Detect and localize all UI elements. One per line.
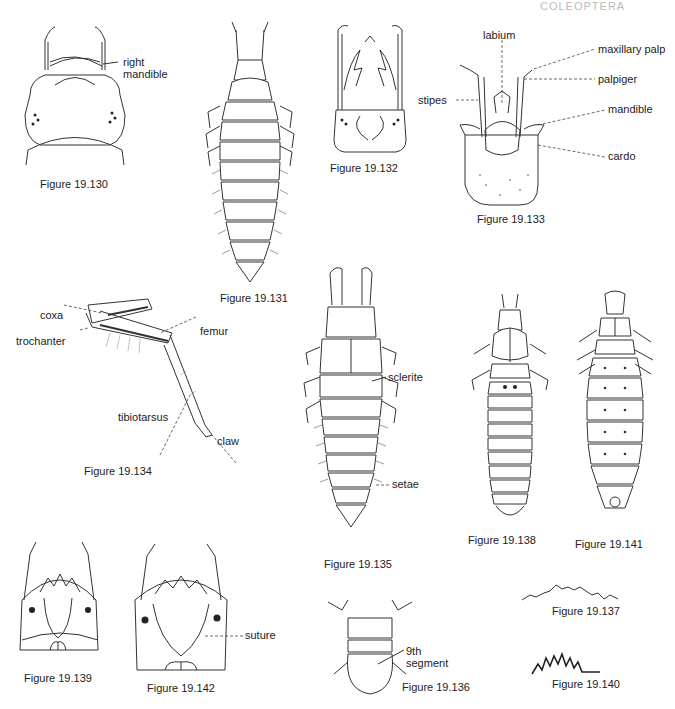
figure-caption: Figure 19.130 — [40, 178, 108, 190]
label-segment: segment — [406, 657, 448, 669]
label-coxa: coxa — [40, 309, 63, 321]
figure-19-130: right mandible Figure 19.130 — [0, 0, 200, 195]
figure-19-131: Figure 19.131 — [200, 20, 300, 310]
label-palpiger: palpiger — [598, 73, 637, 85]
label-mandible: mandible — [123, 68, 168, 80]
larva-head-drawing — [0, 0, 200, 180]
label-femur: femur — [200, 325, 228, 337]
label-maxillary-palp: maxillary palp — [598, 43, 665, 55]
label-stipes: stipes — [418, 94, 447, 106]
larva-body-drawing — [290, 265, 430, 555]
figure-caption: Figure 19.140 — [552, 678, 620, 690]
mouthparts-drawing — [420, 25, 675, 225]
label-sclerite: sclerite — [388, 371, 423, 383]
figure-caption: Figure 19.133 — [477, 213, 545, 225]
figure-caption: Figure 19.135 — [324, 558, 392, 570]
figure-19-138: Figure 19.138 — [460, 290, 560, 580]
figure-19-139: Figure 19.139 — [10, 540, 110, 690]
label-trochanter: trochanter — [16, 335, 66, 347]
figure-19-140: Figure 19.140 — [530, 648, 650, 698]
page-header: COLEOPTERA — [540, 0, 625, 12]
figure-19-137: Figure 19.137 — [520, 575, 640, 625]
seta-outline-drawing — [530, 648, 650, 678]
figure-19-132: Figure 19.132 — [320, 20, 420, 190]
figure-19-136: 9th segment Figure 19.136 — [320, 590, 490, 700]
figure-caption: Figure 19.136 — [402, 681, 470, 693]
figure-caption: Figure 19.142 — [147, 682, 215, 694]
label-9th: 9th — [406, 645, 421, 657]
figure-19-134: coxa trochanter femur tibiotarsus claw F… — [0, 285, 270, 480]
figure-caption: Figure 19.132 — [330, 162, 398, 174]
label-cardo: cardo — [608, 150, 636, 162]
larva-head-drawing — [320, 20, 420, 170]
label-suture: suture — [245, 629, 276, 641]
figure-caption: Figure 19.137 — [552, 605, 620, 617]
figure-caption: Figure 19.141 — [575, 538, 643, 550]
label-tibiotarsus: tibiotarsus — [118, 411, 168, 423]
larva-body-drawing — [460, 290, 560, 530]
label-mandible: mandible — [608, 103, 653, 115]
label-claw: claw — [217, 435, 239, 447]
larva-head-drawing — [10, 540, 110, 670]
figure-19-141: Figure 19.141 — [565, 290, 675, 580]
figure-19-135: sclerite setae Figure 19.135 — [290, 265, 430, 585]
label-setae: setae — [392, 478, 419, 490]
figure-19-133: labium maxillary palp palpiger stipes ma… — [420, 25, 675, 235]
figure-caption: Figure 19.134 — [84, 465, 152, 477]
label-right: right — [123, 56, 144, 68]
label-labium: labium — [483, 29, 515, 41]
figure-caption: Figure 19.138 — [468, 534, 536, 546]
larva-body-drawing — [565, 290, 675, 530]
figure-caption: Figure 19.139 — [24, 672, 92, 684]
larva-head-drawing — [125, 540, 300, 680]
figure-19-142: suture Figure 19.142 — [125, 540, 300, 700]
larva-body-drawing — [200, 20, 300, 290]
